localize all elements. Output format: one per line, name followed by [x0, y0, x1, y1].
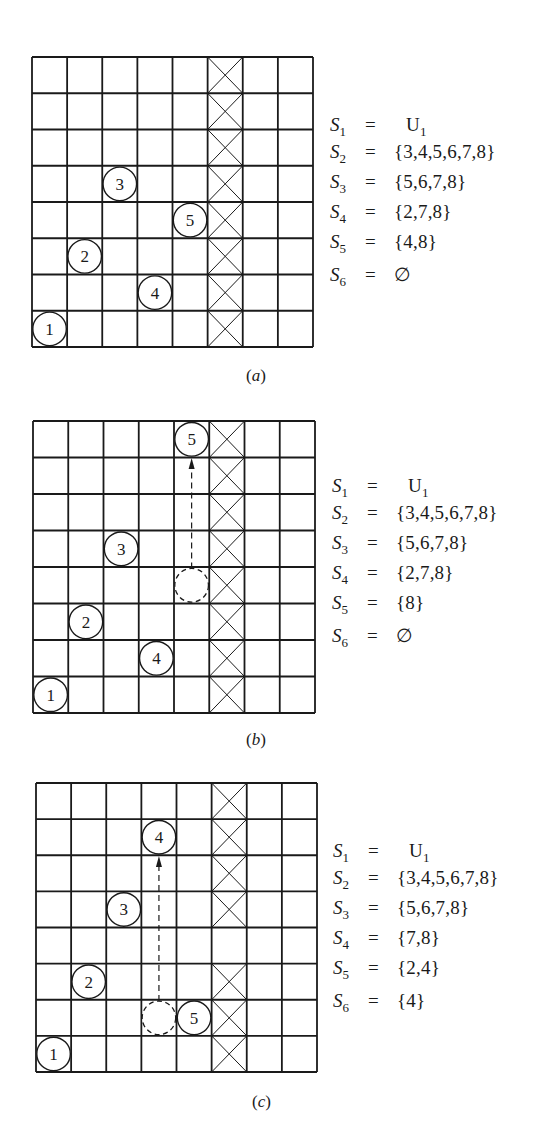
set-value: {4}: [397, 991, 425, 1010]
svg-text:4: 4: [151, 284, 160, 303]
blocked-cell-cross-icon: [208, 238, 243, 274]
set-value: U1: [406, 115, 427, 138]
blocked-cell-cross-icon: [212, 891, 247, 927]
equals-sign: =: [368, 898, 379, 917]
set-value: U1: [409, 841, 430, 864]
grid-lines: [32, 57, 313, 347]
set-name: S4: [333, 928, 349, 951]
svg-text:1: 1: [46, 686, 55, 705]
set-name: S6: [333, 991, 349, 1014]
caption-a: (a): [246, 366, 266, 386]
blocked-cell-cross-icon: [212, 783, 247, 819]
svg-text:2: 2: [84, 973, 93, 992]
set-value: {2,7,8}: [394, 202, 452, 221]
blocked-cell-cross-icon: [209, 640, 244, 677]
set-value: {5,6,7,8}: [396, 533, 468, 552]
queen-marker-3: 3: [107, 893, 141, 927]
equals-sign: =: [365, 265, 376, 284]
queen-marker-5: 5: [175, 422, 209, 456]
chessboard-c: 12345: [36, 783, 317, 1072]
caption-c: (c): [252, 1092, 271, 1112]
queen-marker-4: 4: [142, 820, 176, 854]
set-value: {3,4,5,6,7,8}: [394, 142, 496, 161]
svg-text:3: 3: [117, 540, 126, 559]
blocked-cell-cross-icon: [209, 494, 244, 531]
blocked-cell-cross-icon: [209, 458, 244, 495]
equals-sign: =: [365, 142, 376, 161]
svg-text:2: 2: [80, 247, 89, 266]
queen-marker-2: 2: [68, 240, 102, 274]
set-name: S5: [330, 232, 346, 255]
equals-sign: =: [367, 563, 378, 582]
blocked-cell-cross-icon: [212, 855, 247, 891]
blocked-cell-cross-icon: [209, 604, 244, 641]
set-name: S1: [332, 476, 348, 499]
set-value: ∅: [396, 626, 413, 645]
blocked-cell-cross-icon: [212, 964, 247, 1000]
blocked-cell-cross-icon: [208, 311, 243, 347]
svg-text:5: 5: [186, 211, 195, 230]
set-name: S1: [330, 115, 346, 138]
equals-sign: =: [367, 533, 378, 552]
blocked-cell-cross-icon: [212, 1036, 247, 1072]
svg-text:1: 1: [49, 1045, 58, 1064]
blocked-cell-cross-icon: [208, 93, 243, 129]
set-value: {7,8}: [397, 928, 440, 947]
chessboard-a: 12345: [32, 57, 313, 347]
svg-text:1: 1: [45, 320, 54, 339]
queen-marker-5: 5: [177, 1001, 211, 1035]
blocked-cell-cross-icon: [209, 677, 244, 714]
equals-sign: =: [365, 232, 376, 251]
set-name: S1: [333, 841, 349, 864]
blocked-cell-cross-icon: [209, 531, 244, 568]
set-name: S2: [330, 142, 346, 165]
queen-marker-1: 1: [33, 312, 67, 346]
equals-sign: =: [367, 593, 378, 612]
set-value: {5,6,7,8}: [394, 172, 466, 191]
grid-lines: [36, 783, 317, 1072]
equals-sign: =: [365, 172, 376, 191]
blocked-cell-cross-icon: [208, 57, 243, 93]
equals-sign: =: [365, 202, 376, 221]
svg-text:4: 4: [152, 649, 161, 668]
equals-sign: =: [368, 841, 379, 860]
queen-marker-1: 1: [37, 1037, 71, 1071]
set-name: S4: [332, 563, 348, 586]
equals-sign: =: [368, 991, 379, 1010]
queen-marker-4: 4: [140, 641, 174, 675]
set-value: {4,8}: [394, 232, 437, 251]
set-value: U1: [408, 476, 429, 499]
svg-text:5: 5: [187, 430, 196, 449]
set-name: S3: [333, 898, 349, 921]
equals-sign: =: [368, 868, 379, 887]
queen-marker-1: 1: [34, 678, 68, 712]
set-name: S6: [332, 626, 348, 649]
svg-text:2: 2: [82, 613, 91, 632]
svg-text:3: 3: [116, 175, 125, 194]
equals-sign: =: [367, 503, 378, 522]
blocked-cell-cross-icon: [208, 130, 243, 166]
chessboard-b: 12345: [33, 421, 315, 713]
set-value: {2,7,8}: [396, 563, 454, 582]
set-name: S2: [333, 868, 349, 891]
set-name: S2: [332, 503, 348, 526]
svg-text:3: 3: [120, 900, 129, 919]
move-arrow-icon: [156, 856, 162, 1001]
previous-position-circle-icon: [175, 568, 209, 602]
equals-sign: =: [368, 958, 379, 977]
set-name: S4: [330, 202, 346, 225]
queen-marker-3: 3: [104, 532, 138, 566]
blocked-cell-cross-icon: [208, 275, 243, 311]
svg-text:5: 5: [190, 1009, 199, 1028]
blocked-cell-cross-icon: [209, 567, 244, 604]
queen-marker-5: 5: [173, 203, 207, 237]
queen-marker-2: 2: [72, 965, 106, 999]
grid-lines: [33, 421, 315, 713]
set-name: S3: [330, 172, 346, 195]
caption-b: (b): [246, 730, 266, 750]
move-arrow-icon: [189, 458, 195, 568]
set-value: ∅: [394, 265, 411, 284]
set-name: S3: [332, 533, 348, 556]
blocked-cell-cross-icon: [212, 1000, 247, 1036]
equals-sign: =: [367, 626, 378, 645]
